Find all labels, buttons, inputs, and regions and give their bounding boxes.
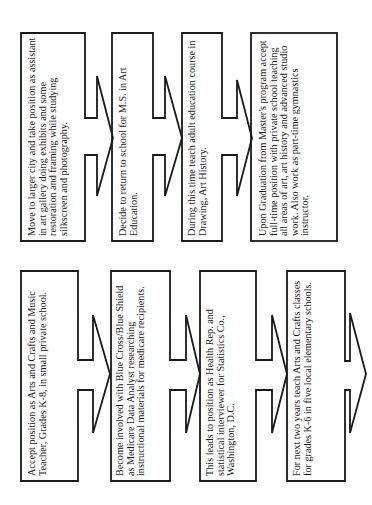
bottom-step-4-text: For next two years teach Arts and Crafts… <box>292 276 342 476</box>
top-step-3-text: During this time teach adult education c… <box>187 36 219 236</box>
bottom-step-3-text: This leads to position as Health Rep. an… <box>205 276 253 476</box>
bottom-step-1-text: Accept position as Arts and Crafts and M… <box>27 276 75 476</box>
top-step-2-text: Decide to return to school for M.S. in A… <box>118 36 150 236</box>
top-step-1-text: Move to larger city and take position as… <box>27 36 83 236</box>
bottom-step-2-text: Become involved with Blue Cross/Blue Shi… <box>115 276 167 476</box>
top-step-4-text: Upon Graduation from Master's program ac… <box>258 36 334 236</box>
